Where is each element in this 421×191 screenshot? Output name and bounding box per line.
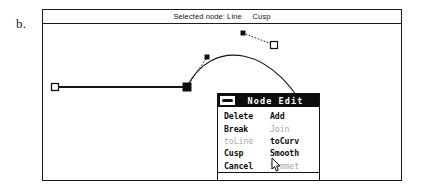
menu-row: Delete Add: [218, 110, 319, 122]
menu-item-toline[interactable]: toLine: [224, 136, 270, 147]
control-handle-point-right[interactable]: [241, 31, 246, 36]
node-mid-open[interactable]: [271, 42, 278, 49]
menu-row: toLine toCurv: [218, 135, 319, 147]
node-edit-dialog[interactable]: Node Edit Delete Add Break Join toLine t…: [217, 93, 320, 181]
figure-label: b.: [16, 16, 26, 32]
menu-row: Break Join: [218, 122, 319, 134]
menu-item-break[interactable]: Break: [224, 123, 270, 134]
close-box-icon[interactable]: [219, 95, 236, 106]
status-bar: Selected node: Line Cusp: [43, 10, 401, 24]
node-endpoint-left[interactable]: [52, 84, 59, 91]
menu-item-delete[interactable]: Delete: [224, 111, 270, 122]
menu-row: Cancel Symmet: [218, 160, 319, 172]
control-handle-line-right: [243, 33, 274, 45]
menu-item-join[interactable]: Join: [270, 123, 319, 134]
menu-item-symmet[interactable]: Symmet: [270, 160, 319, 171]
control-handle-point-left[interactable]: [205, 55, 210, 60]
menu-item-cusp[interactable]: Cusp: [224, 148, 270, 159]
dialog-title: Node Edit: [236, 95, 319, 106]
menu-row: Cusp Smooth: [218, 147, 319, 159]
menu-item-smooth[interactable]: Smooth: [270, 148, 319, 159]
menu-item-add[interactable]: Add: [270, 111, 319, 122]
dialog-menu: Delete Add Break Join toLine toCurv Cusp…: [218, 107, 319, 171]
app-window: Selected node: Line Cusp: [42, 9, 402, 181]
dialog-titlebar[interactable]: Node Edit: [218, 94, 319, 107]
close-box-slot: [222, 99, 233, 103]
menu-item-tocurv[interactable]: toCurv: [270, 136, 319, 147]
menu-item-cancel[interactable]: Cancel: [224, 160, 270, 171]
dialog-footer: [218, 172, 319, 180]
status-bar-text: Selected node: Line Cusp: [173, 12, 270, 21]
node-selected-cusp[interactable]: [183, 83, 191, 91]
